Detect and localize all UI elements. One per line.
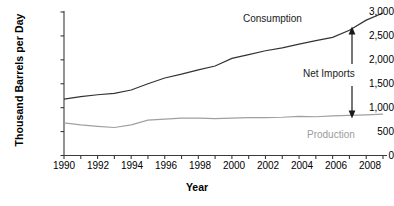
- y-tick-label-2500: 2,500: [350, 30, 394, 41]
- x-tick-label-2008: 2008: [350, 160, 390, 171]
- y-axis-title: Thousand Barrels per Day: [13, 5, 25, 155]
- y-tick-label-3000: 3,000: [350, 6, 394, 17]
- production-annotation-label: Production: [307, 129, 355, 140]
- y-tick-label-1500: 1,500: [350, 78, 394, 89]
- chart-container: Thousand Barrels per Day Year 3,000 2,50…: [0, 0, 394, 206]
- production-line: [64, 114, 383, 127]
- chart-plot-area: [0, 0, 394, 206]
- y-tick-label-1000: 1,000: [350, 102, 394, 113]
- consumption-line: [64, 13, 383, 99]
- consumption-annotation-label: Consumption: [243, 13, 302, 24]
- y-tick-label-500: 500: [350, 126, 394, 137]
- y-tick-label-2000: 2,000: [350, 54, 394, 65]
- net-imports-annotation-label: Net Imports: [303, 68, 355, 79]
- x-axis-title: Year: [0, 181, 394, 193]
